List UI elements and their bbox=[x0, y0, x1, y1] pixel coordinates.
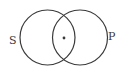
circle-p bbox=[53, 10, 108, 65]
circle-s bbox=[20, 10, 75, 65]
intersection-dot-marker bbox=[63, 37, 66, 40]
set-label-s: S bbox=[9, 35, 17, 46]
venn-diagram bbox=[0, 0, 123, 76]
set-label-p: P bbox=[108, 31, 115, 42]
